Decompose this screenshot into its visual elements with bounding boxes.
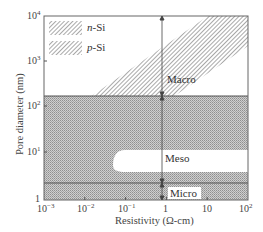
x-tick-0.001: 10−3 — [37, 202, 55, 214]
y-tick-1000: 103 — [27, 54, 41, 66]
y-tick-100: 102 — [27, 99, 41, 111]
legend: n-Si p-Si — [49, 21, 105, 55]
micro-label: Micro — [170, 187, 197, 199]
x-tick-0.01: 10−2 — [77, 202, 95, 214]
macro-label: Macro — [167, 73, 196, 85]
x-tick-labels: 10−3 10−2 10−1 1 10 102 — [37, 202, 253, 214]
legend-label-n-si: n-Si — [87, 21, 105, 33]
x-tick-1: 1 — [163, 203, 168, 214]
x-tick-100: 102 — [239, 202, 253, 214]
legend-label-p-si: p-Si — [86, 41, 105, 53]
x-axis-title: Resistivity (Ω-cm) — [115, 215, 194, 227]
x-tick-0.1: 10−1 — [118, 202, 136, 214]
y-tick-10000: 104 — [27, 9, 41, 21]
meso-label: Meso — [165, 152, 190, 164]
legend-swatch-p-si — [49, 41, 82, 55]
legend-swatch-n-si — [49, 21, 82, 35]
x-tick-10: 10 — [202, 203, 212, 214]
y-axis-title: Pore diameter (nm) — [14, 73, 26, 155]
y-tick-10: 101 — [27, 145, 41, 157]
arrow-macro-top-icon — [160, 16, 164, 20]
y-tick-labels: 1 101 102 103 104 — [27, 9, 41, 204]
pore-diameter-chart: Macro Meso Micro n-Si p-Si 1 101 102 103… — [0, 0, 263, 232]
